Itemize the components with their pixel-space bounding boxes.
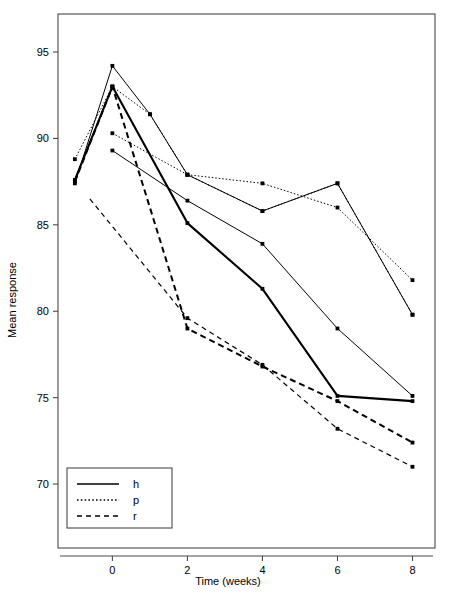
data-point-marker bbox=[261, 242, 265, 246]
legend-box bbox=[67, 468, 172, 528]
chart-container: 707580859095 02468 hpr Time (weeks) Mean… bbox=[0, 0, 451, 601]
data-point-marker bbox=[110, 85, 114, 89]
x-axis-tick-label: 0 bbox=[109, 564, 115, 576]
data-point-marker bbox=[411, 278, 415, 282]
line-chart: 707580859095 02468 hpr Time (weeks) Mean… bbox=[0, 0, 451, 601]
legend-label-p: p bbox=[133, 494, 139, 506]
y-axis-tick-label: 70 bbox=[37, 478, 49, 490]
data-point-marker bbox=[73, 157, 77, 161]
x-axis-tick-label: 2 bbox=[184, 564, 190, 576]
data-point-marker bbox=[411, 313, 415, 317]
data-point-marker bbox=[110, 64, 114, 68]
legend-label-h: h bbox=[133, 478, 139, 490]
data-point-marker bbox=[411, 441, 415, 445]
y-axis-tick-label: 85 bbox=[37, 219, 49, 231]
data-point-marker bbox=[336, 394, 340, 398]
data-point-marker bbox=[186, 316, 190, 320]
data-point-marker bbox=[186, 221, 190, 225]
data-point-marker bbox=[110, 149, 114, 153]
data-point-marker bbox=[186, 199, 190, 203]
y-axis-tick-label: 95 bbox=[37, 46, 49, 58]
data-point-marker bbox=[110, 131, 114, 135]
legend-label-r: r bbox=[133, 510, 137, 522]
data-point-marker bbox=[411, 399, 415, 403]
y-axis-title: Mean response bbox=[6, 262, 18, 338]
data-point-marker bbox=[336, 427, 340, 431]
x-axis-tick-label: 8 bbox=[409, 564, 415, 576]
data-point-marker bbox=[148, 112, 152, 116]
data-point-marker bbox=[261, 287, 265, 291]
data-point-marker bbox=[336, 399, 340, 403]
chart-legend: hpr bbox=[67, 468, 172, 528]
data-point-marker bbox=[411, 465, 415, 469]
data-point-marker bbox=[186, 173, 190, 177]
x-axis-title: Time (weeks) bbox=[195, 575, 261, 587]
data-point-marker bbox=[73, 180, 77, 184]
data-point-marker bbox=[336, 327, 340, 331]
data-point-marker bbox=[186, 327, 190, 331]
data-point-marker bbox=[411, 394, 415, 398]
y-axis-tick-label: 80 bbox=[37, 305, 49, 317]
data-point-marker bbox=[261, 181, 265, 185]
x-axis-tick-label: 6 bbox=[334, 564, 340, 576]
data-point-marker bbox=[261, 209, 265, 213]
y-axis-tick-label: 90 bbox=[37, 132, 49, 144]
data-point-marker bbox=[336, 206, 340, 210]
data-point-marker bbox=[336, 181, 340, 185]
y-axis-tick-label: 75 bbox=[37, 392, 49, 404]
data-point-marker bbox=[261, 363, 265, 367]
